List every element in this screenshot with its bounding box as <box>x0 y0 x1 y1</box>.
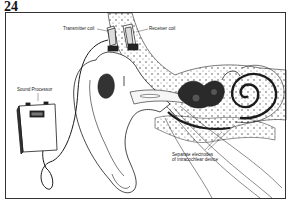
canal-slot <box>140 94 160 97</box>
label-electrodes: Separate electrodes of intracochlear dev… <box>172 152 218 162</box>
label-receiver-coil: Receiver coil <box>149 26 175 31</box>
sound-processor <box>17 102 57 154</box>
label-transmitter-coil: Transmitter coil <box>63 26 94 31</box>
cochlear-implant-illustration <box>0 0 296 203</box>
label-electrodes-line2: of intracochlear device <box>172 157 218 162</box>
label-sound-processor: Sound Processor <box>17 87 52 92</box>
concha <box>98 74 114 98</box>
